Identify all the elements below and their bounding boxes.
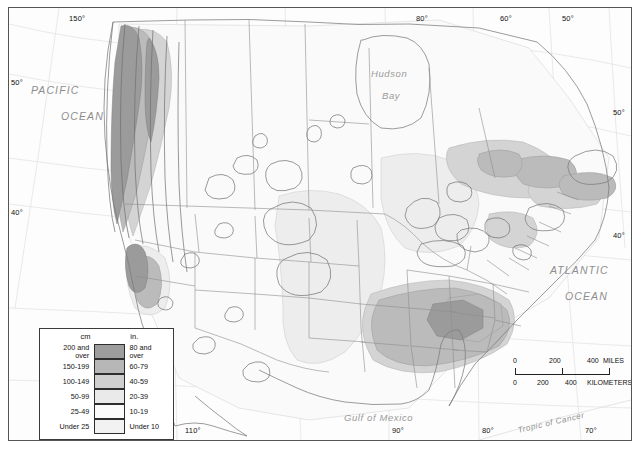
scale-tick-end [609,368,610,375]
legend-swatch-under-25 [94,419,124,434]
legend-cm-150-199: 150-199 [40,363,93,370]
legend-in-under-10: Under 10 [126,423,173,430]
atlantic-ocean-label-line1: ATLANTIC [550,264,609,276]
graticule-label-top-150: 150° [69,14,85,23]
scale-miles-200: 200 [549,357,561,364]
scale-bar-graphic [507,368,631,377]
pacific-ocean-label-line1: PACIFIC [31,84,79,96]
legend-header-cm: cm [40,332,94,341]
legend-swatch-100-149 [94,374,124,389]
legend-row-200-over[interactable]: 200 andover 80 andover [40,344,173,359]
legend-row-100-149[interactable]: 100-149 40-59 [40,374,173,389]
legend-in-40-59: 40-59 [126,378,173,385]
graticule-label-top-50: 50° [562,14,574,23]
scale-kilometers-labels: 0 200 400 KILOMETERS [507,379,631,389]
legend-header-in: in. [127,332,173,341]
graticule-label-left-40: 40° [11,208,23,217]
legend-in-80-over: 80 andover [126,344,173,359]
legend-cm-under-25: Under 25 [40,423,93,430]
legend-cm-200-over: 200 andover [40,344,93,359]
political-borders [125,20,579,388]
atlantic-ocean-label-line2: OCEAN [565,290,608,302]
hudson-bay-label-line1: Hudson [371,68,407,79]
legend-swatch-200-over [94,344,124,359]
legend-cm-50-99: 50-99 [40,393,93,400]
legend-in-20-39: 20-39 [126,393,173,400]
graticule-label-top-60: 60° [500,14,512,23]
graticule-label-bottom-90: 90° [392,426,404,435]
gulf-of-mexico-label: Gulf of Mexico [344,412,413,423]
scale-miles-unit: MILES [603,357,624,364]
precipitation-legend: cm in. 200 andover 80 andover 150-199 [39,328,174,440]
scale-km-200: 200 [537,379,549,386]
map-scale-bar: 0 200 400 MILES 0 200 400 KILOMETERS [507,357,631,397]
scale-km-0: 0 [513,379,517,386]
scale-miles-0: 0 [513,357,517,364]
graticule-label-left-50: 50° [11,78,23,87]
graticule-label-right-50: 50° [613,108,625,117]
pacific-ocean-label-line2: OCEAN [61,110,104,122]
scale-tick-mid [562,368,563,375]
legend-in-10-19: 10-19 [126,408,173,415]
legend-cm-100-149: 100-149 [40,378,93,385]
legend-row-under-25[interactable]: Under 25 Under 10 [40,419,173,434]
graticule-label-right-40: 40° [613,231,625,240]
scale-miles-400: 400 [587,357,599,364]
scale-miles-labels: 0 200 400 MILES [507,357,631,367]
scale-tick-0 [515,368,516,375]
legend-cm-25-49: 25-49 [40,408,93,415]
legend-rows: 200 andover 80 andover 150-199 60-79 100… [40,344,173,434]
graticule-label-bottom-110: 110° [185,426,201,435]
legend-row-50-99[interactable]: 50-99 20-39 [40,389,173,404]
graticule-label-top-80: 80° [416,14,428,23]
map-page: 150° 80° 60° 50° 110° 90° 80° 70° 50° 40… [0,0,638,449]
legend-row-150-199[interactable]: 150-199 60-79 [40,359,173,374]
legend-swatch-150-199 [94,359,124,374]
map-frame: 150° 80° 60° 50° 110° 90° 80° 70° 50° 40… [8,7,632,441]
scale-km-400: 400 [565,379,577,386]
legend-row-25-49[interactable]: 25-49 10-19 [40,404,173,419]
legend-header: cm in. [40,329,173,344]
legend-swatch-50-99 [94,389,124,404]
legend-swatch-25-49 [94,404,124,419]
hudson-bay-label-line2: Bay [382,90,400,101]
graticule-label-bottom-80: 80° [482,426,494,435]
legend-in-60-79: 60-79 [126,363,173,370]
scale-km-unit: KILOMETERS [587,379,632,386]
graticule-label-bottom-70: 70° [585,426,597,435]
